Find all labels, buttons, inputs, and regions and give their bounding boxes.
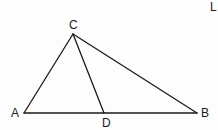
triangle-diagram: A B C D L: [0, 0, 218, 130]
segment-cd: [73, 34, 104, 113]
corner-fragment-label: L: [210, 0, 217, 14]
segment-ac: [24, 34, 73, 113]
diagram-canvas: A B C D L: [0, 0, 218, 130]
point-label-d: D: [102, 116, 111, 130]
vertex-label-c: C: [69, 18, 78, 32]
segment-cb: [73, 34, 197, 113]
vertex-label-a: A: [11, 106, 19, 120]
vertex-label-b: B: [201, 106, 209, 120]
